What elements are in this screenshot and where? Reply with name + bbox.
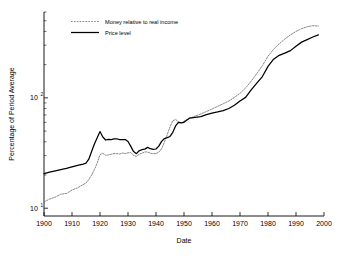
legend-label-money: Money relative to real income	[105, 19, 178, 25]
x-tick-label: 1970	[232, 220, 248, 227]
x-tick-label: 2000	[316, 220, 332, 227]
x-axis-title: Date	[177, 237, 192, 244]
x-tick-label: 1900	[36, 220, 52, 227]
y-tick-exponent: 1	[41, 203, 44, 208]
x-axis-title-text: Date	[177, 237, 192, 244]
y-tick-exponent: 2	[41, 92, 44, 97]
x-tick-label: 1990	[288, 220, 304, 227]
y-axis-title-text: Percentage of Period Average	[8, 67, 16, 160]
x-tick-label: 1930	[120, 220, 136, 227]
x-tick-label: 1910	[64, 220, 80, 227]
x-tick-label: 1940	[148, 220, 164, 227]
x-tick-label: 1960	[204, 220, 220, 227]
line-chart: 101102 190019101920193019401950196019701…	[0, 0, 354, 256]
x-tick-label: 1920	[92, 220, 108, 227]
y-tick-label: 10	[30, 205, 38, 212]
y-axis-title: Percentage of Period Average	[8, 67, 16, 160]
chart-figure: 101102 190019101920193019401950196019701…	[0, 0, 354, 256]
x-tick-label: 1980	[260, 220, 276, 227]
legend-label-price: Price level	[105, 30, 131, 36]
x-tick-label: 1950	[176, 220, 192, 227]
plot-background	[0, 0, 354, 256]
y-tick-label: 10	[30, 94, 38, 101]
